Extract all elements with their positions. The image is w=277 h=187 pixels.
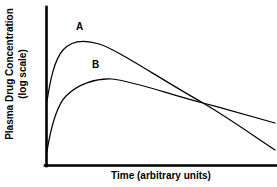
plot-canvas <box>0 0 277 187</box>
chart-figure: A B Time (arbitrary units) Plasma Drug C… <box>0 0 277 187</box>
curve-b-label: B <box>92 60 99 70</box>
y-axis-title-line-2: (log scale) <box>17 0 30 159</box>
y-axis-title-line-1: Plasma Drug Concentration <box>4 0 17 159</box>
y-axis-title: Plasma Drug Concentration (log scale) <box>4 0 30 159</box>
chart-background <box>0 0 277 187</box>
x-axis-title: Time (arbitrary units) <box>46 170 276 182</box>
curve-a-label: A <box>76 22 83 32</box>
